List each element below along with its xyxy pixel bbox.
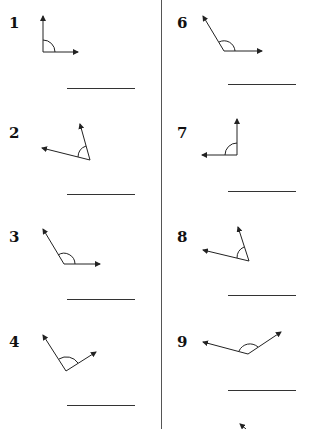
partial-arrow-icon — [0, 0, 310, 429]
